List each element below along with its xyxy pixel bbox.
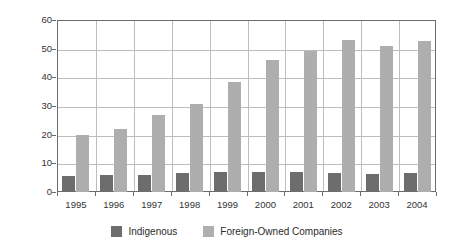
y-axis-tick-label: 10 <box>32 158 52 168</box>
bar-foreign-1997 <box>152 115 165 192</box>
bar-indigenous-2002 <box>328 173 341 192</box>
bar-indigenous-2001 <box>290 172 303 192</box>
y-axis-tick-mark <box>52 106 56 107</box>
bar-foreign-1999 <box>228 82 241 192</box>
y-axis-tick-mark <box>52 135 56 136</box>
bar-foreign-2004 <box>418 41 431 192</box>
y-axis-tick-label: 60 <box>32 15 52 25</box>
x-axis-label-1999: 1999 <box>208 199 248 210</box>
bar-chart-figure: € Billions 0102030405060 199519961997199… <box>0 0 454 247</box>
bar-foreign-2003 <box>380 46 393 192</box>
legend-swatch-icon <box>203 226 214 237</box>
y-axis-tick-mark <box>52 192 56 193</box>
bar-foreign-2000 <box>266 60 279 192</box>
x-axis-tick-mark <box>360 192 361 196</box>
y-axis-tick-label: 20 <box>32 130 52 140</box>
legend-label: Indigenous <box>128 226 177 237</box>
bar-indigenous-2000 <box>252 172 265 192</box>
bar-indigenous-1998 <box>176 173 189 192</box>
y-axis-tick-mark <box>52 20 56 21</box>
bar-indigenous-2004 <box>404 173 417 192</box>
x-axis-tick-mark <box>398 192 399 196</box>
legend-label: Foreign-Owned Companies <box>220 226 342 237</box>
x-axis-label-2004: 2004 <box>397 199 437 210</box>
bar-foreign-1996 <box>114 129 127 192</box>
y-axis-tick-mark <box>52 163 56 164</box>
x-axis-label-2002: 2002 <box>321 199 361 210</box>
y-axis-tick-labels: 0102030405060 <box>27 0 52 247</box>
bar-indigenous-1996 <box>100 175 113 192</box>
bar-indigenous-2003 <box>366 174 379 192</box>
x-axis-label-2001: 2001 <box>283 199 323 210</box>
bar-foreign-1995 <box>76 135 89 192</box>
x-axis-tick-mark <box>95 192 96 196</box>
y-axis-tick-label: 30 <box>32 101 52 111</box>
x-axis-tick-mark <box>171 192 172 196</box>
x-axis-label-1997: 1997 <box>132 199 172 210</box>
x-axis-tick-mark <box>322 192 323 196</box>
bar-indigenous-1999 <box>214 172 227 192</box>
legend-swatch-icon <box>111 226 122 237</box>
y-axis-tick-label: 50 <box>32 44 52 54</box>
bars-layer <box>57 20 436 192</box>
x-axis-tick-mark <box>133 192 134 196</box>
x-axis-tick-mark <box>57 192 58 196</box>
bar-foreign-2001 <box>304 51 317 192</box>
x-axis-label-2003: 2003 <box>359 199 399 210</box>
chart-legend: IndigenousForeign-Owned Companies <box>0 221 454 241</box>
bar-indigenous-1997 <box>138 175 151 192</box>
x-axis-tick-mark <box>247 192 248 196</box>
x-axis-label-2000: 2000 <box>245 199 285 210</box>
bar-foreign-1998 <box>190 104 203 192</box>
legend-item-foreign: Foreign-Owned Companies <box>203 226 342 237</box>
x-axis-tick-mark <box>436 192 437 196</box>
bar-indigenous-1995 <box>62 176 75 192</box>
x-axis-label-1998: 1998 <box>170 199 210 210</box>
x-axis-tick-mark <box>209 192 210 196</box>
x-axis-tick-mark <box>284 192 285 196</box>
y-axis-tick-label: 40 <box>32 72 52 82</box>
y-axis-tick-label: 0 <box>32 187 52 197</box>
bar-foreign-2002 <box>342 40 355 192</box>
y-axis-tick-mark <box>52 77 56 78</box>
y-axis-tick-mark <box>52 49 56 50</box>
x-axis-label-1995: 1995 <box>56 199 96 210</box>
x-axis-label-1996: 1996 <box>94 199 134 210</box>
legend-item-indigenous: Indigenous <box>111 226 177 237</box>
